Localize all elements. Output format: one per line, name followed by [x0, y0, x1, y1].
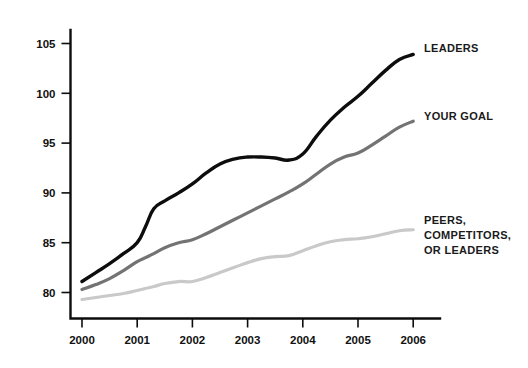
- y-axis-label-105: 105: [36, 38, 56, 50]
- x-axis-label-2000: 2000: [69, 334, 95, 346]
- y-axis-label-100: 100: [36, 88, 55, 100]
- x-axis-tick-labels: 2000200120022003200420052006: [69, 334, 426, 346]
- x-axis-label-2003: 2003: [235, 334, 261, 346]
- series-line-leaders: [82, 54, 413, 281]
- y-axis-label-80: 80: [43, 287, 56, 299]
- y-axis-label-90: 90: [43, 187, 56, 199]
- x-axis-label-2005: 2005: [345, 334, 371, 346]
- series-label-peers-competitors-or-leaders: COMPETITORS,: [424, 229, 511, 241]
- series-label-peers-competitors-or-leaders: PEERS,: [424, 214, 466, 226]
- y-axis-label-85: 85: [43, 237, 56, 249]
- y-axis-label-95: 95: [43, 137, 56, 149]
- line-chart: 80859095100105 2000200120022003200420052…: [0, 0, 528, 368]
- x-axis-label-2002: 2002: [180, 334, 206, 346]
- y-axis-tick-labels: 80859095100105: [36, 38, 56, 299]
- series-label-leaders: LEADERS: [424, 42, 479, 54]
- series-label-your-goal: YOUR GOAL: [424, 110, 493, 122]
- x-axis-label-2001: 2001: [124, 334, 150, 346]
- x-axis-label-2004: 2004: [290, 334, 316, 346]
- chart-inline-legend: LEADERSYOUR GOALPEERS,COMPETITORS,OR LEA…: [424, 42, 511, 256]
- chart-canvas: 80859095100105 2000200120022003200420052…: [0, 0, 528, 368]
- x-axis-label-2006: 2006: [400, 334, 426, 346]
- series-label-peers-competitors-or-leaders: OR LEADERS: [424, 244, 499, 256]
- chart-series-lines: [82, 54, 413, 299]
- chart-tick-marks: [62, 44, 414, 328]
